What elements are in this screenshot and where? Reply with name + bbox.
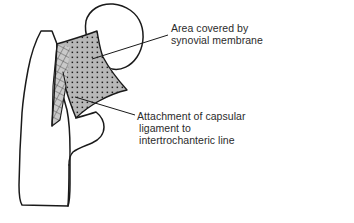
label-capsular-line-3: intertrochanteric line [137, 134, 246, 146]
label-synovial-line-1: Area covered by [171, 22, 263, 34]
lesser-trochanter-outline [69, 112, 104, 165]
label-synovial-membrane: Area covered by synovial membrane [171, 22, 263, 46]
label-capsular-line-2: ligament to [137, 122, 246, 134]
label-synovial-line-2: synovial membrane [171, 34, 263, 46]
label-capsular-line-1: Attachment of capsular [137, 110, 246, 122]
figure-canvas: Area covered by synovial membrane Attach… [0, 0, 354, 223]
label-capsular-ligament: Attachment of capsular ligament to inter… [137, 110, 246, 147]
